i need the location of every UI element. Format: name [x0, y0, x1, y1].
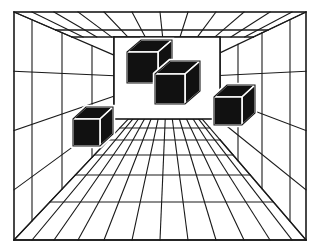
cube-center-front-face [155, 74, 185, 104]
perspective-room-figure [0, 0, 320, 251]
perspective-room-canvas [0, 0, 320, 251]
cube-left-low-front-face [73, 119, 100, 146]
cube-center [155, 61, 200, 104]
cube-right-front-face [214, 97, 242, 125]
cube-right [214, 85, 255, 125]
cube-left-low [73, 107, 113, 146]
